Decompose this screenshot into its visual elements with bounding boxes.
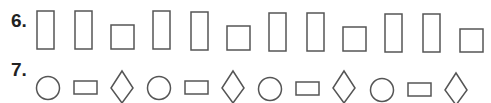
rectangle-shape xyxy=(185,81,208,94)
tall-rectangle-shape xyxy=(37,11,54,49)
diamond-shape xyxy=(222,71,244,103)
circle-shape xyxy=(371,79,394,102)
tall-rectangle-shape xyxy=(423,14,440,52)
problem-7-shape-pattern xyxy=(0,55,491,103)
diamond-shape xyxy=(111,71,133,103)
square-shape xyxy=(111,25,134,49)
problem-6: 6. xyxy=(0,0,491,55)
diamond-shape xyxy=(445,73,467,103)
circle-shape xyxy=(259,78,282,101)
circle-shape xyxy=(148,77,171,100)
diamond-shape xyxy=(333,71,355,103)
tall-rectangle-shape xyxy=(269,13,286,51)
circle-shape xyxy=(37,77,60,100)
rectangle-shape xyxy=(296,82,319,95)
square-shape xyxy=(460,29,483,52)
square-shape xyxy=(227,26,250,50)
problem-6-shape-pattern xyxy=(0,0,491,55)
tall-rectangle-shape xyxy=(191,12,208,50)
rectangle-shape xyxy=(408,83,431,96)
rectangle-shape xyxy=(74,81,97,94)
tall-rectangle-shape xyxy=(75,11,92,49)
square-shape xyxy=(343,27,366,51)
problem-7: 7. xyxy=(0,55,491,103)
tall-rectangle-shape xyxy=(307,13,324,51)
tall-rectangle-shape xyxy=(153,11,170,49)
tall-rectangle-shape xyxy=(385,14,402,52)
